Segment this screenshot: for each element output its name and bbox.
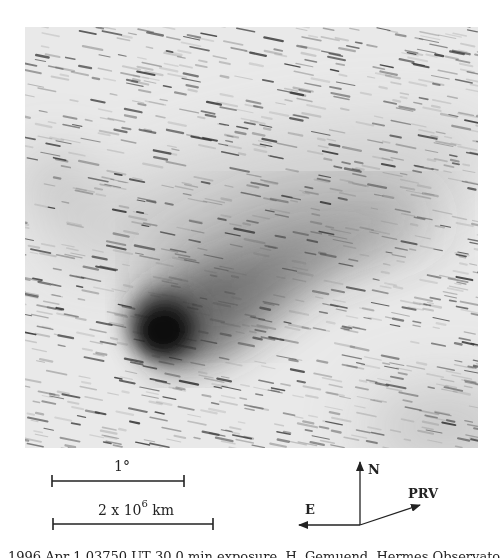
- distance-scale-bar: [53, 518, 213, 530]
- compass-rose: [299, 462, 420, 525]
- distance-scale-label: 2 x 106 km: [98, 501, 174, 517]
- prv-arrow: [360, 505, 420, 525]
- distance-scale-base: 2 x 10: [98, 502, 142, 518]
- angular-scale-bar: [52, 475, 184, 487]
- figure-caption: 1996 Apr 1 03750 UT 30.0 min exposure. H…: [8, 549, 500, 558]
- distance-scale-exponent: 6: [142, 498, 148, 509]
- distance-scale-unit: km: [152, 502, 174, 518]
- north-label: N: [368, 463, 380, 476]
- angular-scale-label: 1°: [114, 459, 130, 473]
- annotations: [0, 0, 500, 558]
- prv-label: PRV: [408, 487, 438, 500]
- east-label: E: [305, 503, 315, 516]
